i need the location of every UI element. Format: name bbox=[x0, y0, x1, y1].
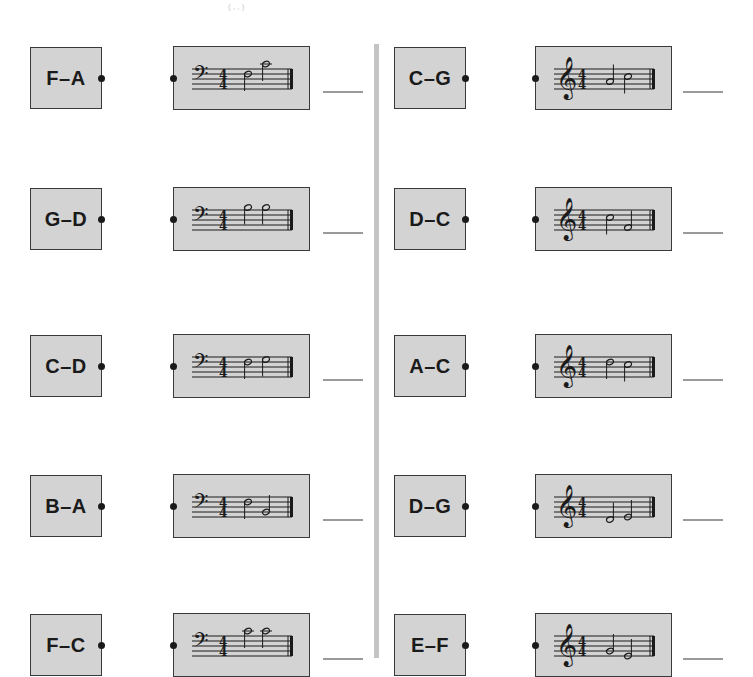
half-note bbox=[606, 358, 615, 379]
half-note bbox=[624, 500, 633, 521]
staff-card: 𝄢44 bbox=[173, 474, 310, 538]
half-note bbox=[624, 639, 633, 660]
half-note bbox=[624, 361, 633, 382]
answer-blank[interactable] bbox=[683, 379, 723, 381]
half-note bbox=[262, 204, 271, 225]
label-match-dot[interactable] bbox=[98, 503, 105, 510]
interval-label-box: F–C bbox=[30, 614, 102, 676]
svg-text:4: 4 bbox=[578, 645, 586, 659]
staff-card: 𝄢44 bbox=[173, 46, 310, 110]
staff-match-dot[interactable] bbox=[532, 75, 539, 82]
bass-clef-icon: 𝄢 bbox=[193, 203, 208, 231]
half-note bbox=[606, 65, 615, 86]
staff-card: 𝄞44 bbox=[535, 613, 672, 677]
staff-match-dot[interactable] bbox=[532, 642, 539, 649]
half-note bbox=[262, 356, 271, 377]
label-match-dot[interactable] bbox=[98, 363, 105, 370]
interval-label: C–D bbox=[45, 355, 87, 378]
interval-label: D–G bbox=[409, 495, 452, 518]
half-note bbox=[260, 60, 272, 81]
staff-match-dot[interactable] bbox=[170, 216, 177, 223]
interval-label: D–C bbox=[409, 208, 451, 231]
treble-clef-icon: 𝄞 bbox=[556, 198, 577, 241]
label-match-dot[interactable] bbox=[462, 75, 469, 82]
answer-blank[interactable] bbox=[683, 91, 723, 93]
answer-blank[interactable] bbox=[683, 519, 723, 521]
answer-blank[interactable] bbox=[683, 658, 723, 660]
half-note bbox=[262, 495, 271, 516]
treble-clef-icon: 𝄞 bbox=[556, 57, 577, 100]
time-signature: 44 bbox=[578, 635, 586, 659]
label-match-dot[interactable] bbox=[462, 642, 469, 649]
half-note bbox=[244, 498, 253, 519]
staff-match-dot[interactable] bbox=[170, 642, 177, 649]
staff-card: 𝄞44 bbox=[535, 187, 672, 251]
half-note bbox=[624, 73, 633, 94]
half-note bbox=[606, 214, 615, 235]
half-note bbox=[242, 627, 254, 648]
label-match-dot[interactable] bbox=[98, 642, 105, 649]
half-note bbox=[624, 211, 633, 232]
interval-label: G–D bbox=[45, 208, 88, 231]
staff-card: 𝄢44 bbox=[173, 334, 310, 398]
interval-label-box: F–A bbox=[30, 47, 102, 109]
interval-label-box: D–G bbox=[394, 475, 466, 537]
svg-text:4: 4 bbox=[219, 78, 227, 92]
time-signature: 44 bbox=[219, 635, 227, 659]
interval-label-box: D–C bbox=[394, 188, 466, 250]
answer-blank[interactable] bbox=[683, 232, 723, 234]
svg-text:4: 4 bbox=[578, 506, 586, 520]
staff-match-dot[interactable] bbox=[170, 503, 177, 510]
half-note bbox=[606, 634, 615, 655]
staff-card: 𝄞44 bbox=[535, 46, 672, 110]
bass-clef-icon: 𝄢 bbox=[193, 350, 208, 378]
label-match-dot[interactable] bbox=[462, 216, 469, 223]
bass-clef-icon: 𝄢 bbox=[193, 490, 208, 518]
staff-match-dot[interactable] bbox=[532, 363, 539, 370]
answer-blank[interactable] bbox=[323, 379, 363, 381]
staff-card: 𝄢44 bbox=[173, 613, 310, 677]
answer-blank[interactable] bbox=[323, 232, 363, 234]
interval-label-box: E–F bbox=[394, 614, 466, 676]
half-note bbox=[244, 70, 253, 91]
answer-blank[interactable] bbox=[323, 519, 363, 521]
time-signature: 44 bbox=[219, 209, 227, 233]
interval-label-box: G–D bbox=[30, 188, 102, 250]
interval-label: C–G bbox=[409, 67, 452, 90]
time-signature: 44 bbox=[219, 356, 227, 380]
interval-label-box: A–C bbox=[394, 335, 466, 397]
answer-blank[interactable] bbox=[323, 658, 363, 660]
staff-match-dot[interactable] bbox=[170, 363, 177, 370]
svg-text:4: 4 bbox=[578, 219, 586, 233]
treble-clef-icon: 𝄞 bbox=[556, 485, 577, 528]
time-signature: 44 bbox=[219, 68, 227, 92]
label-match-dot[interactable] bbox=[98, 75, 105, 82]
interval-label: F–A bbox=[46, 67, 85, 90]
svg-text:4: 4 bbox=[219, 366, 227, 380]
interval-label: E–F bbox=[411, 634, 449, 657]
bass-clef-icon: 𝄢 bbox=[193, 62, 208, 90]
time-signature: 44 bbox=[578, 356, 586, 380]
header-fragment: ( , , ) bbox=[228, 2, 244, 11]
half-note bbox=[606, 503, 615, 524]
time-signature: 44 bbox=[578, 68, 586, 92]
treble-clef-icon: 𝄞 bbox=[556, 345, 577, 388]
answer-blank[interactable] bbox=[323, 91, 363, 93]
label-match-dot[interactable] bbox=[462, 503, 469, 510]
label-match-dot[interactable] bbox=[462, 363, 469, 370]
staff-match-dot[interactable] bbox=[170, 75, 177, 82]
interval-label-box: C–D bbox=[30, 335, 102, 397]
bass-clef-icon: 𝄢 bbox=[193, 629, 208, 657]
label-match-dot[interactable] bbox=[98, 216, 105, 223]
svg-text:4: 4 bbox=[219, 645, 227, 659]
svg-text:4: 4 bbox=[219, 219, 227, 233]
staff-match-dot[interactable] bbox=[532, 503, 539, 510]
half-note bbox=[260, 627, 272, 648]
treble-clef-icon: 𝄞 bbox=[556, 624, 577, 667]
interval-label: A–C bbox=[409, 355, 451, 378]
time-signature: 44 bbox=[578, 496, 586, 520]
half-note bbox=[244, 204, 253, 225]
staff-match-dot[interactable] bbox=[532, 216, 539, 223]
svg-text:4: 4 bbox=[578, 78, 586, 92]
staff-card: 𝄢44 bbox=[173, 187, 310, 251]
